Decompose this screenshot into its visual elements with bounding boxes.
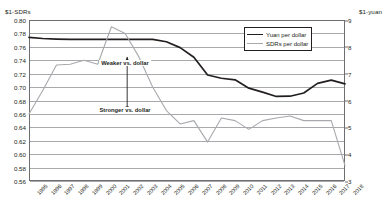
x-tick-label: 2007 xyxy=(201,183,214,196)
x-tick-label: 2014 xyxy=(297,183,310,196)
x-tick-label: 2016 xyxy=(324,183,337,196)
left-tick-label: 0.68 xyxy=(14,97,26,104)
x-tick-label: 2006 xyxy=(187,183,200,196)
x-tick-label: 2008 xyxy=(214,183,227,196)
left-axis-title: $1-SDRs xyxy=(5,8,31,15)
x-tick-label: 1998 xyxy=(77,183,90,196)
left-tick-label: 0.62 xyxy=(14,137,26,144)
left-axis-tick-labels: 0.560.580.600.620.640.660.680.700.720.74… xyxy=(0,20,26,181)
x-tick-label: 2001 xyxy=(118,183,131,196)
x-tick-label: 2015 xyxy=(310,183,323,196)
annotation-weaker: Weaker vs. dollar xyxy=(99,60,151,66)
left-tick-label: 0.76 xyxy=(14,43,26,50)
left-tick-label: 0.66 xyxy=(14,110,26,117)
x-tick-label: 2013 xyxy=(283,183,296,196)
legend-item-sdr: SDRs per dollar xyxy=(247,39,308,48)
right-tick-mark xyxy=(345,20,348,21)
right-tick-label: 4 xyxy=(348,151,351,158)
right-tick-mark xyxy=(345,127,348,128)
right-axis-title: $1-yuan xyxy=(359,8,382,15)
right-tick-mark xyxy=(345,47,348,48)
left-tick-label: 0.58 xyxy=(14,164,26,171)
x-tick-label: 2004 xyxy=(159,183,172,196)
right-tick-label: 6 xyxy=(348,97,351,104)
x-tick-label: 2002 xyxy=(132,183,145,196)
right-tick-label: 3 xyxy=(348,178,351,185)
right-tick-mark xyxy=(345,154,348,155)
x-tick-label: 2005 xyxy=(173,183,186,196)
legend-swatch-yuan-icon xyxy=(247,34,263,35)
legend-label-yuan: Yuan per dollar xyxy=(266,32,306,38)
left-tick-label: 0.70 xyxy=(14,84,26,91)
right-tick-mark xyxy=(345,181,348,182)
legend-label-sdr: SDRs per dollar xyxy=(266,41,308,47)
chart-legend: Yuan per dollar SDRs per dollar xyxy=(244,27,312,51)
x-axis-tick-labels: 1995199619971998199920002001200220032004… xyxy=(29,183,345,213)
left-tick-label: 0.80 xyxy=(14,17,26,24)
x-tick-label: 2011 xyxy=(255,183,268,196)
x-tick-label: 2003 xyxy=(146,183,159,196)
x-tick-label: 2010 xyxy=(242,183,255,196)
x-tick-label: 2017 xyxy=(338,183,351,196)
right-tick-mark xyxy=(345,74,348,75)
right-tick-mark xyxy=(345,101,348,102)
x-tick-label: 1999 xyxy=(91,183,104,196)
right-tick-label: 5 xyxy=(348,124,351,131)
right-tick-label: 7 xyxy=(348,70,351,77)
right-tick-label: 9 xyxy=(348,17,351,24)
x-tick-label: 1997 xyxy=(63,183,76,196)
left-tick-label: 0.74 xyxy=(14,57,26,64)
x-tick-label: 2018 xyxy=(352,183,365,196)
legend-item-yuan: Yuan per dollar xyxy=(247,30,308,39)
x-tick-label: 1995 xyxy=(36,183,49,196)
x-tick-label: 1996 xyxy=(49,183,62,196)
right-tick-label: 8 xyxy=(348,43,351,50)
x-tick-label: 2000 xyxy=(104,183,117,196)
dual-axis-line-chart: $1-SDRs $1-yuan 0.560.580.600.620.640.66… xyxy=(0,0,386,213)
left-tick-label: 0.56 xyxy=(14,178,26,185)
legend-swatch-sdr-icon xyxy=(247,43,263,44)
right-axis-tick-labels: 3456789 xyxy=(348,20,378,181)
x-tick-label: 2009 xyxy=(228,183,241,196)
left-tick-label: 0.78 xyxy=(14,30,26,37)
gridline xyxy=(30,181,344,182)
x-tick-label: 2012 xyxy=(269,183,282,196)
left-tick-label: 0.64 xyxy=(14,124,26,131)
left-tick-label: 0.72 xyxy=(14,70,26,77)
annotation-stronger: Stronger vs. dollar xyxy=(97,107,152,113)
left-tick-label: 0.60 xyxy=(14,151,26,158)
